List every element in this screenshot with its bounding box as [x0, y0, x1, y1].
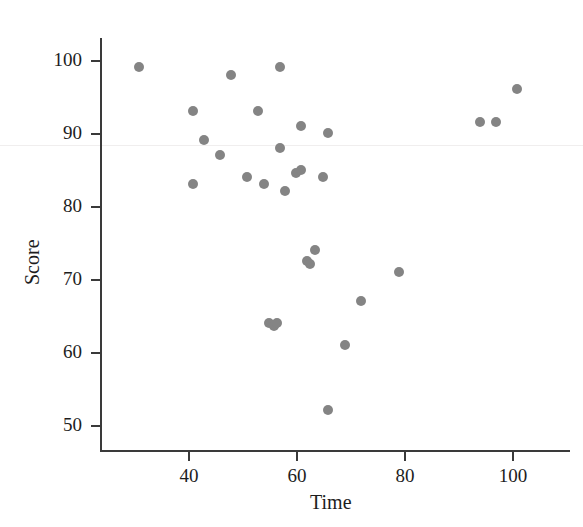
data-point [188, 106, 198, 116]
data-point [475, 117, 485, 127]
y-tick-label-100: 100 [24, 50, 82, 69]
x-axis-line [100, 450, 570, 452]
data-point [340, 340, 350, 350]
data-point [259, 179, 269, 189]
scatter-plot-figure: 5060708090100406080100 Score Time [0, 0, 583, 527]
y-tick-90 [91, 133, 100, 135]
data-point [215, 150, 225, 160]
data-point [275, 62, 285, 72]
x-tick-80 [404, 452, 406, 461]
y-axis-line [100, 38, 102, 452]
data-point [188, 179, 198, 189]
data-point [275, 143, 285, 153]
x-tick-label-100: 100 [482, 466, 544, 485]
x-tick-label-40: 40 [158, 466, 220, 485]
data-point [310, 245, 320, 255]
data-point [356, 296, 366, 306]
x-tick-label-60: 60 [266, 466, 328, 485]
data-point [323, 128, 333, 138]
x-tick-label-80: 80 [374, 466, 436, 485]
data-point [394, 267, 404, 277]
data-point [318, 172, 328, 182]
data-point [296, 121, 306, 131]
y-tick-label-60: 60 [24, 342, 82, 361]
data-point [323, 405, 333, 415]
y-tick-label-80: 80 [24, 196, 82, 215]
x-tick-40 [188, 452, 190, 461]
x-axis-title: Time [310, 492, 352, 512]
y-tick-100 [91, 60, 100, 62]
y-tick-50 [91, 425, 100, 427]
data-point [280, 186, 290, 196]
data-point [512, 84, 522, 94]
x-tick-60 [296, 452, 298, 461]
data-point [305, 259, 315, 269]
data-point [296, 165, 306, 175]
plot-area: 5060708090100406080100 [0, 0, 583, 527]
data-point [253, 106, 263, 116]
data-point [272, 318, 282, 328]
x-tick-100 [512, 452, 514, 461]
data-point [242, 172, 252, 182]
y-tick-60 [91, 352, 100, 354]
y-tick-label-50: 50 [24, 415, 82, 434]
data-point [134, 62, 144, 72]
y-axis-title: Score [22, 239, 42, 285]
y-tick-80 [91, 206, 100, 208]
data-point [491, 117, 501, 127]
y-tick-70 [91, 279, 100, 281]
data-point [226, 70, 236, 80]
data-point [199, 135, 209, 145]
y-tick-label-90: 90 [24, 123, 82, 142]
